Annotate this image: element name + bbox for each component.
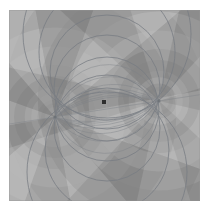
center-marker	[102, 100, 106, 104]
plot-area	[9, 10, 200, 201]
conformal-map-figure	[0, 0, 209, 211]
plot-content	[9, 10, 200, 201]
plot-canvas	[9, 10, 200, 201]
pole-left-marker	[53, 115, 56, 118]
pole-right-marker	[157, 99, 160, 102]
